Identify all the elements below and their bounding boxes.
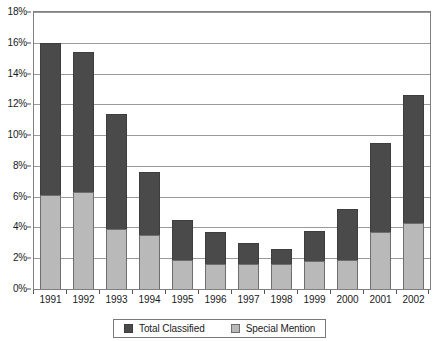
bar-group: [172, 12, 193, 289]
y-axis-tick-label: 8%: [13, 161, 27, 171]
bar-segment-special-mention: [403, 223, 424, 289]
legend-swatch-icon: [124, 324, 133, 333]
x-axis-tick-label: 1993: [106, 294, 128, 306]
bar-group: [304, 12, 325, 289]
y-axis-tick-mark: [27, 12, 31, 13]
bar-stack: [73, 52, 94, 289]
bar-stack: [337, 209, 358, 289]
bar-stack: [304, 231, 325, 289]
bar-segment-special-mention: [106, 229, 127, 289]
y-axis-tick-mark: [27, 227, 31, 228]
x-axis-tick-label: 1995: [172, 294, 194, 306]
bar-segment-total-classified: [106, 114, 127, 229]
y-axis-tick-mark: [27, 165, 31, 166]
x-axis-tick-label: 1997: [238, 294, 260, 306]
x-axis-tick-label: 1994: [139, 294, 161, 306]
bar-segment-special-mention: [238, 264, 259, 289]
bar-segment-total-classified: [139, 172, 160, 235]
bar-group: [238, 12, 259, 289]
bar-stack: [238, 243, 259, 289]
x-axis-tick-label: 1991: [40, 294, 62, 306]
bar-segment-special-mention: [304, 261, 325, 289]
y-axis-tick-label: 16%: [8, 38, 27, 48]
bar-segment-special-mention: [40, 195, 61, 289]
bar-segment-total-classified: [40, 43, 61, 195]
bar-group: [271, 12, 292, 289]
x-axis-tick-label: 2002: [403, 294, 425, 306]
bar-group: [403, 12, 424, 289]
bar-group: [337, 12, 358, 289]
bar-segment-special-mention: [139, 235, 160, 289]
y-axis-tick-mark: [27, 289, 31, 290]
bar-stack: [40, 43, 61, 289]
bar-group: [73, 12, 94, 289]
y-axis-tick-label: 14%: [8, 69, 27, 79]
y-axis-tick-label: 6%: [13, 192, 27, 202]
bar-stack: [172, 220, 193, 289]
y-axis-tick-mark: [27, 104, 31, 105]
y-axis-tick-mark: [27, 42, 31, 43]
bar-group: [139, 12, 160, 289]
y-axis-tick-mark: [27, 196, 31, 197]
bar-segment-special-mention: [73, 192, 94, 289]
y-axis-tick-label: 18%: [8, 7, 27, 17]
bar-group: [106, 12, 127, 289]
chart-legend: Total ClassifiedSpecial Mention: [113, 319, 326, 338]
bar-stack: [205, 232, 226, 289]
y-axis-tick-mark: [27, 73, 31, 74]
bar-segment-total-classified: [172, 220, 193, 260]
y-axis-tick-mark: [27, 135, 31, 136]
bar-segment-total-classified: [271, 249, 292, 264]
y-axis-tick-label: 12%: [8, 99, 27, 109]
bar-stack: [403, 95, 424, 289]
x-axis-tick-label: 1992: [73, 294, 95, 306]
bar-group: [205, 12, 226, 289]
bar-segment-total-classified: [304, 231, 325, 262]
y-axis-tick-mark: [27, 258, 31, 259]
bar-segment-total-classified: [205, 232, 226, 264]
x-axis-tick-label: 2000: [337, 294, 359, 306]
bar-stack: [370, 143, 391, 289]
y-axis-tick-label: 10%: [8, 130, 27, 140]
legend-label: Total Classified: [139, 323, 205, 334]
x-axis-tick-label: 2001: [370, 294, 392, 306]
bar-segment-total-classified: [238, 243, 259, 265]
legend-label: Special Mention: [246, 323, 316, 334]
stacked-bar-chart: 0%2%4%6%8%10%12%14%16%18% 19911992199319…: [0, 0, 436, 341]
legend-swatch-icon: [231, 324, 240, 333]
x-axis-tick-label: 1998: [271, 294, 293, 306]
bar-segment-total-classified: [337, 209, 358, 260]
legend-entry: Total Classified: [124, 323, 205, 334]
legend-entry: Special Mention: [231, 323, 316, 334]
bar-segment-special-mention: [337, 260, 358, 289]
x-axis: 1991199219931994199519961997199819992000…: [33, 294, 431, 308]
bars-layer: [34, 12, 430, 289]
x-axis-tick-label: 1999: [304, 294, 326, 306]
bar-segment-special-mention: [172, 260, 193, 289]
bar-segment-special-mention: [370, 232, 391, 289]
bar-segment-total-classified: [73, 52, 94, 192]
bar-stack: [139, 172, 160, 289]
bar-segment-special-mention: [271, 264, 292, 289]
bar-segment-total-classified: [403, 95, 424, 223]
bar-group: [40, 12, 61, 289]
y-axis-tick-label: 0%: [13, 284, 27, 294]
x-axis-tick-label: 1996: [205, 294, 227, 306]
y-axis: 0%2%4%6%8%10%12%14%16%18%: [0, 11, 31, 290]
y-axis-tick-label: 2%: [13, 253, 27, 263]
bar-segment-special-mention: [205, 264, 226, 289]
bar-stack: [271, 249, 292, 289]
bar-stack: [106, 114, 127, 289]
bar-group: [370, 12, 391, 289]
y-axis-tick-label: 4%: [13, 222, 27, 232]
bar-segment-total-classified: [370, 143, 391, 232]
